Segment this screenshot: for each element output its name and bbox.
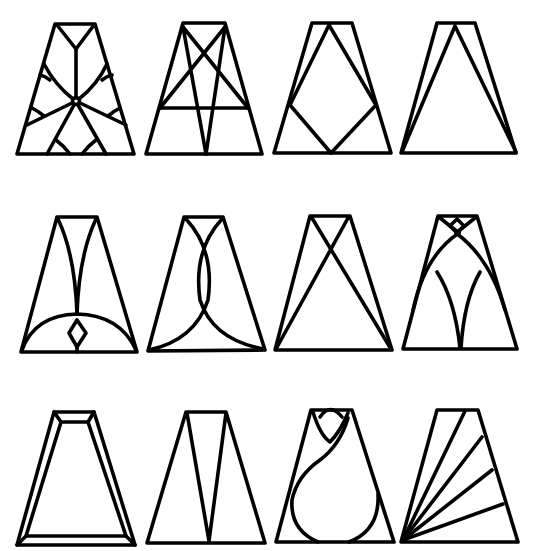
design-7-x-cross [275,216,392,350]
top-v [57,25,94,49]
inner-arch-right [461,272,480,348]
diamond-bottom-right [331,105,376,153]
left-upper-notch [40,75,50,80]
designs-canvas [0,0,537,551]
panel-outline [274,23,391,153]
top-small-diamond [450,219,464,233]
inner-v [187,413,226,541]
left-lower-notch [32,108,44,116]
design-5-arch-diamond [21,217,137,352]
inner-arch-left [437,272,460,348]
small-diamond [69,320,86,347]
design-8-gothic-arches [403,216,517,349]
panel-outline [17,412,135,545]
bottom-right-notch [82,140,96,154]
design-11-tulip-bud [276,410,394,543]
panel-outline [275,216,392,350]
leg-left [183,27,206,154]
diamond-bottom-left [290,105,331,153]
design-1-star-flower [17,24,134,154]
design-4-inner-triangle [401,23,516,153]
cross-a [312,218,391,349]
left-curve [58,219,77,314]
panel-outline [148,217,265,351]
design-6-interlaced-arcs [148,217,265,351]
right-curve [77,219,96,314]
cross-b [276,218,348,349]
design-9-double-border [17,412,135,545]
right-lower-notch [108,108,120,116]
bowl-right [349,494,378,542]
diamond-top-right [329,25,376,105]
design-3-diamond [274,23,391,153]
design-2-crossed-diagonals [146,23,262,154]
design-12-fan-rays [401,410,518,542]
panel-outline [401,23,516,153]
design-10-inverted-v [147,412,265,543]
upper-left-petal [44,64,73,99]
stem-s-curve [292,418,348,542]
bottom-left-notch [56,140,70,154]
inner-outline [26,422,126,536]
